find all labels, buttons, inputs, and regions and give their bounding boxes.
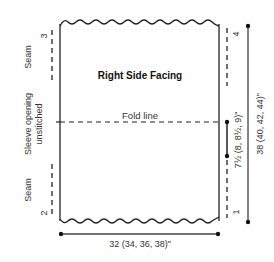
marker-3: 3	[39, 33, 49, 38]
sleeve-opening-label: Sleeve opening unstitched	[23, 93, 45, 155]
height-measurement-label: 38 (40, 42, 44)"	[255, 93, 265, 155]
top-wavy-edge	[60, 20, 219, 26]
width-measure-dot-right	[216, 232, 220, 236]
width-measure-dot-left	[59, 232, 63, 236]
height-measure-dot-bottom	[246, 220, 250, 224]
opening-measurement-label: 7½ (8, 8½, 9)"	[233, 112, 243, 169]
bottom-wavy-edge	[60, 217, 219, 223]
opening-measure-dot-top	[225, 120, 229, 124]
sleeve-opening-line1: Sleeve opening	[23, 93, 34, 155]
marker-1: 1	[231, 209, 241, 214]
width-measurement-label: 32 (34, 36, 38)"	[109, 239, 171, 249]
marker-4: 4	[231, 31, 241, 36]
right-side-facing-label: Right Side Facing	[98, 70, 182, 81]
height-measure-dot-top	[246, 24, 250, 28]
marker-2: 2	[39, 210, 49, 215]
opening-measure-dot-bottom	[225, 154, 229, 158]
seam-top-label: Seam	[23, 45, 33, 69]
fold-line-label: Fold line	[122, 110, 158, 121]
sleeve-opening-line2: unstitched	[34, 93, 45, 155]
garment-schematic: Right Side Facing Fold line Seam Seam Sl…	[0, 0, 274, 262]
seam-bottom-label: Seam	[23, 178, 33, 202]
